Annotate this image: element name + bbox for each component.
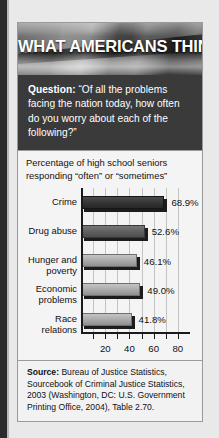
x-axis-tick: [166, 334, 167, 339]
y-axis: [81, 188, 83, 334]
chart-panel: Percentage of high school seniors respon…: [18, 150, 202, 360]
bar-category-label: Crime: [19, 196, 77, 207]
banner-title: WHAT AMERICANS THINK: [18, 37, 202, 56]
bar-category-label: Drug abuse: [19, 225, 77, 236]
gridline: [142, 188, 143, 334]
bar-category-label: Hunger and poverty: [19, 254, 77, 276]
page-gutter: [0, 0, 7, 438]
bar: 41.8%: [81, 313, 132, 326]
question-block: Question: “Of all the problems facing th…: [18, 75, 202, 150]
bar-value-label: 49.0%: [147, 284, 174, 295]
bar-category-label: Economic problems: [19, 283, 77, 305]
x-axis-tick: [142, 334, 143, 339]
banner: WHAT AMERICANS THINK: [18, 23, 202, 75]
source-label: Source:: [27, 367, 59, 377]
plot-wrap: Crime68.9%Drug abuse52.6%Hunger and pove…: [26, 188, 194, 356]
bar: 52.6%: [81, 225, 145, 238]
figure-card: WHAT AMERICANS THINK Question: “Of all t…: [17, 22, 203, 422]
chart-caption: Percentage of high school seniors respon…: [26, 157, 194, 182]
bar-value-label: 46.1%: [144, 255, 171, 266]
bar: 46.1%: [81, 254, 137, 267]
x-axis-tick: [129, 334, 130, 339]
bar-value-label: 68.9%: [171, 197, 198, 208]
bar-value-label: 52.6%: [152, 226, 179, 237]
x-axis-tick: [105, 334, 106, 339]
x-axis-tick: [93, 334, 94, 339]
plot-area: Crime68.9%Drug abuse52.6%Hunger and pove…: [81, 188, 190, 334]
bar: 68.9%: [81, 196, 164, 209]
bar-category-label: Race relations: [19, 313, 77, 335]
x-axis: [81, 332, 190, 334]
source-note: Source: Bureau of Justice Statistics, So…: [18, 360, 202, 420]
x-axis-tick-label: 20: [100, 343, 111, 354]
x-axis-tick-label: 60: [148, 343, 159, 354]
bar-value-label: 41.8%: [139, 314, 166, 325]
question-label: Question:: [28, 84, 76, 95]
gridline: [178, 188, 179, 334]
page-gutter-edge: [7, 0, 9, 438]
x-axis-tick: [154, 334, 155, 339]
x-axis-tick: [178, 334, 179, 339]
bar: 49.0%: [81, 283, 140, 296]
x-axis-tick-label: 80: [173, 343, 184, 354]
x-axis-tick-label: 40: [124, 343, 135, 354]
x-axis-tick: [117, 334, 118, 339]
